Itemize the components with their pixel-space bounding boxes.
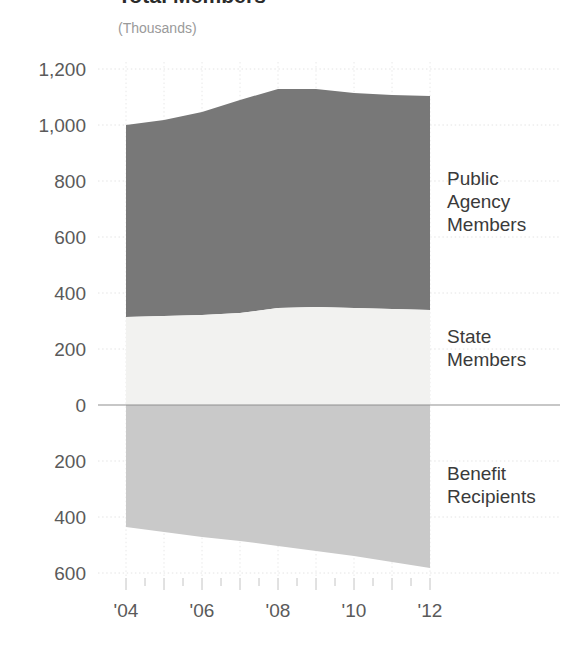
x-axis-label-10: '10 [324,601,384,620]
x-axis-label-08: '08 [248,601,308,620]
y-axis-label-1000: 1,000 [14,116,86,135]
series-area-benefit-recipients [126,405,430,568]
y-axis-label-neg600: 600 [14,564,86,583]
x-axis-label-12: '12 [400,601,460,620]
series-label-benefit-line-2: Recipients [447,485,536,508]
series-label-public-agency-line-1: Public [447,167,526,190]
y-axis-label-800: 800 [14,172,86,191]
series-label-state-members: State Members [447,325,526,371]
series-label-public-agency-members: Public Agency Members [447,167,526,237]
series-label-benefit-line-1: Benefit [447,462,536,485]
x-axis-label-06: '06 [172,601,232,620]
y-axis-label-0: 0 [14,396,86,415]
series-label-public-agency-line-3: Members [447,213,526,236]
series-label-public-agency-line-2: Agency [447,190,526,213]
y-axis-label-neg400: 400 [14,508,86,527]
x-axis-ticks [126,578,430,590]
y-axis-label-1200: 1,200 [14,60,86,79]
y-axis-label-600: 600 [14,228,86,247]
series-label-state-line-2: Members [447,348,526,371]
x-axis-label-04: '04 [96,601,156,620]
y-axis-label-400: 400 [14,284,86,303]
series-area-public-agency-members [126,89,430,317]
series-label-state-line-1: State [447,325,526,348]
y-axis-label-neg200: 200 [14,452,86,471]
series-label-benefit-recipients: Benefit Recipients [447,462,536,508]
y-axis-label-200: 200 [14,340,86,359]
series-area-state-members [126,307,430,405]
chart-page: Total Members (Thousands) [0,0,582,658]
